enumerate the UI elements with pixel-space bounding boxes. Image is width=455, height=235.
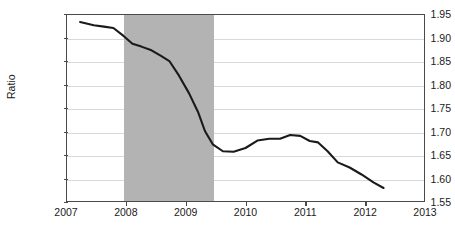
x-tick-mark bbox=[186, 202, 187, 206]
y-tick-label: 1.90 bbox=[393, 33, 451, 43]
y-tick-label: 1.75 bbox=[393, 103, 451, 113]
y-tick-mark bbox=[64, 179, 68, 180]
y-axis bbox=[0, 0, 62, 235]
y-tick-label: 1.60 bbox=[393, 174, 451, 184]
x-tick-label: 2009 bbox=[156, 206, 216, 218]
y-tick-label: 1.80 bbox=[393, 80, 451, 90]
y-tick-label: 1.65 bbox=[393, 150, 451, 160]
y-tick-label: 1.70 bbox=[393, 127, 451, 137]
x-tick-label: 2007 bbox=[36, 206, 96, 218]
y-tick-mark bbox=[64, 108, 68, 109]
y-tick-mark bbox=[64, 202, 68, 203]
x-tick-mark bbox=[126, 202, 127, 206]
x-tick-mark bbox=[365, 202, 366, 206]
x-tick-label: 2011 bbox=[275, 206, 335, 218]
y-tick-mark bbox=[64, 14, 68, 15]
x-tick-label: 2008 bbox=[96, 206, 156, 218]
x-tick-mark bbox=[305, 202, 306, 206]
x-tick-label: 2010 bbox=[216, 206, 276, 218]
y-tick-mark bbox=[64, 38, 68, 39]
x-tick-label: 2013 bbox=[395, 206, 455, 218]
plot-area bbox=[66, 14, 425, 202]
series-line-ratio bbox=[67, 15, 424, 201]
y-tick-mark bbox=[64, 155, 68, 156]
x-tick-label: 2012 bbox=[335, 206, 395, 218]
y-tick-mark bbox=[64, 61, 68, 62]
y-tick-mark bbox=[64, 132, 68, 133]
x-tick-mark bbox=[246, 202, 247, 206]
y-tick-label: 1.85 bbox=[393, 56, 451, 66]
y-tick-mark bbox=[64, 85, 68, 86]
y-tick-label: 1.95 bbox=[393, 9, 451, 19]
